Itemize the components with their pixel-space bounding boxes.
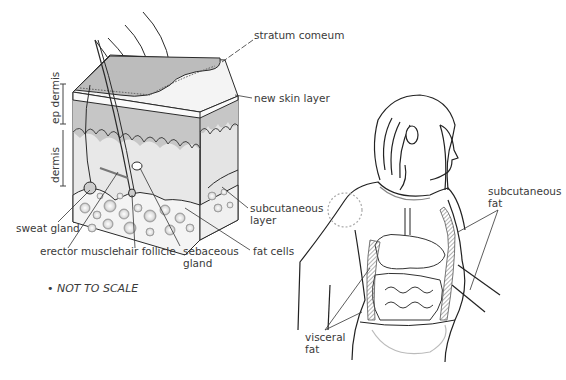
label-hair-follicle: hair follicle bbox=[118, 245, 176, 257]
label-dermis: dermis bbox=[49, 147, 61, 183]
label-visceral-fat: visceral fat bbox=[305, 331, 346, 355]
label-sweat-gland: sweat gland bbox=[16, 222, 80, 234]
label-fat-cells: fat cells bbox=[253, 245, 294, 257]
label-subcutaneous-layer: subcutaneous layer bbox=[250, 202, 323, 226]
label-erector-muscle: erector muscle bbox=[40, 245, 118, 257]
label-sebaceous-gland: sebaceous gland bbox=[183, 245, 239, 269]
label-stratum-corneum: stratum comeum bbox=[254, 29, 344, 41]
label-subcutaneous-fat: subcutaneous fat bbox=[488, 185, 561, 209]
label-epidermis: ep dermis bbox=[49, 72, 61, 124]
not-to-scale-note: • NOT TO SCALE bbox=[47, 283, 138, 295]
human-torso bbox=[298, 95, 500, 362]
skin-cross-section bbox=[73, 12, 238, 255]
label-new-skin-layer: new skin layer bbox=[254, 92, 330, 104]
diagram-artwork bbox=[0, 0, 566, 380]
